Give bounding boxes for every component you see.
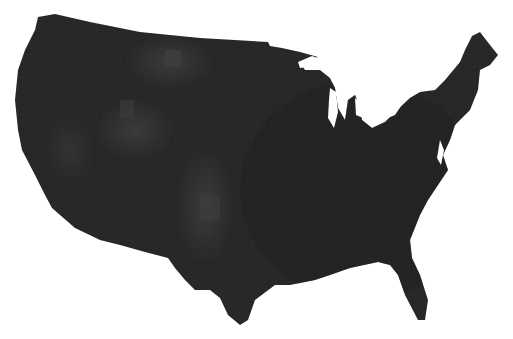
land-mass (15, 14, 498, 325)
us-county-choropleth-map (0, 0, 513, 339)
